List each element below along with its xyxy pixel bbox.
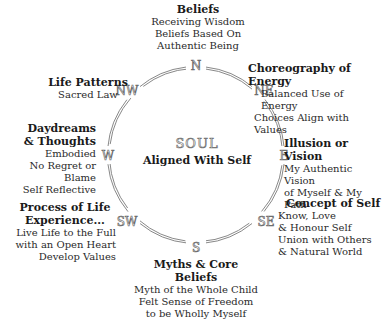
section-line: Develop Values <box>0 251 116 263</box>
section-south: Myths & Core Beliefs Myth of the Whole C… <box>130 258 262 320</box>
center-title: SOUL <box>140 136 254 152</box>
section-line: & Honour Self <box>278 222 382 234</box>
section-line: Receiving Wisdom <box>140 16 256 28</box>
section-line: Live Life to the Full <box>0 227 116 239</box>
section-line: Know, Love <box>278 210 382 222</box>
center-label: SOUL Aligned With Self <box>140 136 254 168</box>
section-line: Choices Align with Values <box>248 112 382 136</box>
section-southeast: Concept of Self Know, Love & Honour Self… <box>278 197 382 258</box>
section-northeast: Choreography of Energy Balanced Use of E… <box>248 62 382 136</box>
direction-sw: SW <box>117 215 138 229</box>
section-southwest: Process of Life Experience... Live Life … <box>0 201 116 263</box>
section-title: Illusion or Vision <box>284 137 382 163</box>
section-line: My Authentic Vision <box>284 163 382 187</box>
section-title: Life Patterns <box>48 76 128 89</box>
center-subtitle: Aligned With Self <box>140 154 254 168</box>
section-line: with an Open Heart <box>0 239 116 251</box>
section-title: Beliefs <box>130 271 262 284</box>
section-north: Beliefs Receiving Wisdom Beliefs Based O… <box>140 3 256 52</box>
section-line: Authentic Being <box>140 40 256 52</box>
section-line: Balanced Use of Energy <box>248 88 382 112</box>
section-title: Choreography of Energy <box>248 62 382 88</box>
direction-w: W <box>102 149 115 163</box>
section-title: Myths & Core <box>130 258 262 271</box>
direction-s: S <box>192 241 200 255</box>
section-line: Union with Others <box>278 234 382 246</box>
section-title: Process of Life <box>0 201 116 214</box>
section-title: Daydreams <box>0 122 96 135</box>
section-line: No Regret or Blame <box>0 160 96 184</box>
direction-se: SE <box>258 215 275 229</box>
section-line: Self Reflective <box>0 184 96 196</box>
section-title: Experience... <box>0 214 116 227</box>
section-title: Beliefs <box>140 3 256 16</box>
section-title: & Thoughts <box>0 135 96 148</box>
section-west: Daydreams & Thoughts Embodied No Regret … <box>0 122 96 196</box>
section-line: Myth of the Whole Child <box>130 284 262 296</box>
section-line: & Natural World <box>278 246 382 258</box>
direction-n: N <box>191 59 202 73</box>
section-northwest: Life Patterns Sacred Law <box>48 76 128 101</box>
section-line: to be Wholly Myself <box>130 308 262 320</box>
section-line: Beliefs Based On <box>140 28 256 40</box>
section-line: Sacred Law <box>48 89 128 101</box>
section-line: Felt Sense of Freedom <box>130 296 262 308</box>
section-line: Embodied <box>0 148 96 160</box>
section-title: Concept of Self <box>278 197 382 210</box>
